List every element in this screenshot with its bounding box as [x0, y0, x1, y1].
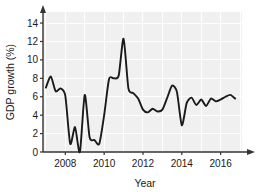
- x-tick-label: 2008: [54, 158, 77, 169]
- chart-canvas: 02468101214 20082010201220142016 Year GD…: [0, 0, 260, 192]
- gdp-growth-line-chart: 02468101214 20082010201220142016 Year GD…: [0, 0, 260, 192]
- x-tick-label: 2012: [132, 158, 155, 169]
- x-axis-tick-labels: 20082010201220142016: [54, 158, 232, 169]
- y-axis-title: GDP growth (%): [4, 44, 16, 120]
- y-tick-label: 10: [27, 54, 39, 65]
- y-tick-label: 0: [32, 147, 38, 158]
- y-tick-label: 14: [27, 18, 39, 29]
- x-tick-label: 2010: [93, 158, 116, 169]
- y-tick-label: 6: [32, 91, 38, 102]
- y-tick-label: 8: [32, 73, 38, 84]
- x-tick-label: 2014: [171, 158, 194, 169]
- x-axis-title: Year: [134, 177, 156, 189]
- y-axis-tick-labels: 02468101214: [27, 18, 39, 158]
- x-tick-label: 2016: [210, 158, 233, 169]
- y-axis-arrow-icon: [40, 5, 46, 13]
- y-tick-label: 2: [32, 128, 38, 139]
- y-tick-label: 12: [27, 36, 39, 47]
- y-tick-label: 4: [32, 110, 38, 121]
- x-axis-arrow-icon: [247, 149, 255, 155]
